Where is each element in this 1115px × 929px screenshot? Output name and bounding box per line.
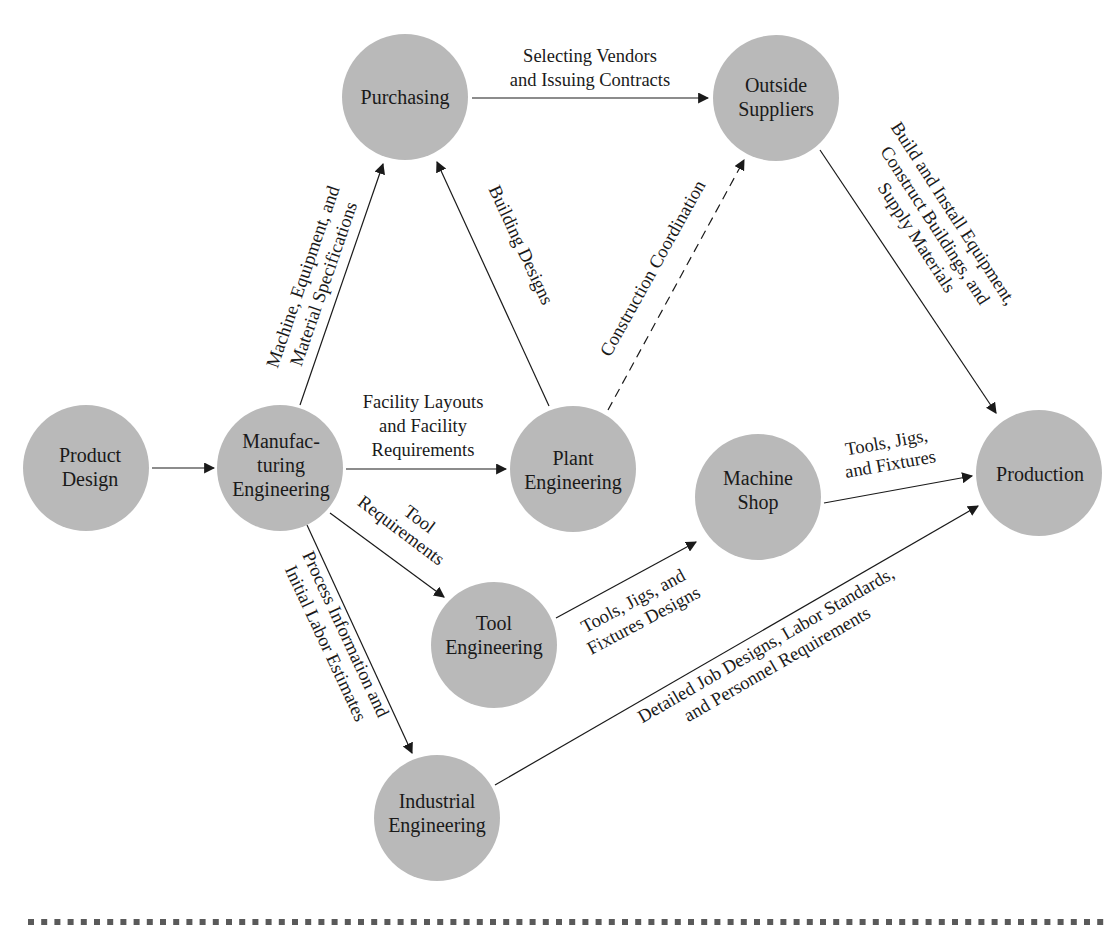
footer-dotted-rule [28, 919, 1103, 925]
edge-purchasing-to-suppliers: Selecting Vendors and Issuing Contracts [472, 46, 708, 98]
edge-label: and Facility [379, 416, 468, 436]
node-label: Purchasing [361, 86, 450, 109]
edge-mfg-to-purchasing: Machine, Equipment, and Material Specifi… [262, 164, 383, 405]
arrow-line [608, 160, 744, 410]
edge-label: Construction Coordination [596, 177, 709, 360]
edge-machine-to-production: Tools, Jigs, and Fixtures [824, 425, 972, 503]
node-label: Engineering [524, 471, 622, 494]
node-label: Machine [723, 467, 793, 489]
edge-tool-to-machine: Tools, Jigs, and Fixtures Designs [556, 542, 703, 659]
node-tool-engineering: Tool Engineering [431, 582, 557, 708]
node-label: Industrial [399, 790, 476, 812]
node-label: Engineering [388, 814, 486, 837]
node-label: turing [257, 454, 305, 477]
edge-plant-to-suppliers: Construction Coordination [596, 160, 744, 410]
node-circle [510, 406, 636, 532]
edge-label: and Issuing Contracts [510, 70, 670, 90]
edge-label: Selecting Vendors [523, 46, 657, 66]
node-label: Production [996, 463, 1084, 485]
node-label: Shop [737, 491, 778, 514]
edge-label: Requirements [372, 440, 475, 460]
edge-label: Facility Layouts [363, 392, 484, 412]
edge-mfg-to-tool: Tool Requirements [330, 476, 460, 597]
node-purchasing: Purchasing [342, 34, 468, 160]
node-label: Tool [476, 612, 513, 634]
node-label: Suppliers [738, 98, 814, 121]
node-label: Plant [552, 447, 594, 469]
edge-plant-to-purchasing: Building Designs [437, 162, 557, 406]
edge-mfg-to-plant: Facility Layouts and Facility Requiremen… [346, 392, 506, 469]
node-outside-suppliers: Outside Suppliers [713, 35, 839, 161]
edge-suppliers-to-production: Build and Install Equipment, Construct B… [820, 118, 1020, 413]
node-label: Outside [745, 74, 807, 96]
node-label: Manufac- [242, 430, 320, 452]
edge-label: Requirements [354, 492, 448, 570]
node-machine-shop: Machine Shop [695, 434, 821, 560]
node-label: Engineering [445, 636, 543, 659]
node-industrial-engineering: Industrial Engineering [374, 755, 500, 881]
node-production: Production [976, 410, 1102, 536]
node-label: Design [62, 468, 119, 491]
edge-label: and Personnel Requirements [680, 603, 873, 726]
node-product-design: Product Design [23, 405, 149, 531]
node-plant-engineering: Plant Engineering [510, 406, 636, 532]
node-label: Engineering [232, 478, 330, 501]
node-manufacturing-engineering: Manufac- turing Engineering [217, 405, 343, 531]
node-label: Product [59, 444, 122, 466]
diagram-canvas: Selecting Vendors and Issuing Contracts … [0, 0, 1115, 929]
